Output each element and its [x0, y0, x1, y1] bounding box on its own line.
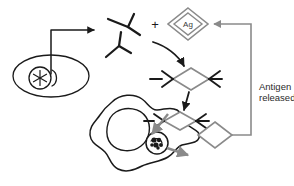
complex-upper-antibody-left	[150, 71, 173, 87]
antibody-antigen-complex-lower	[144, 112, 209, 130]
complex-upper-antigen	[173, 68, 209, 90]
free-antibodies	[106, 14, 140, 57]
antigen-label: Ag	[183, 20, 193, 29]
macrophage	[90, 95, 199, 171]
antibody-upper	[108, 14, 140, 35]
antibody-antigen-complex-upper	[150, 68, 222, 90]
arrow-complex-descend	[184, 92, 189, 110]
diagram-canvas: + Ag	[0, 0, 294, 186]
antigen-released-line1: Antigen	[259, 81, 291, 92]
diagram-svg: + Ag	[0, 0, 294, 186]
complex-lower-antibody-right	[196, 114, 209, 128]
antibody-lower	[106, 32, 131, 57]
lysosome	[146, 132, 168, 154]
arrow-binding-curve	[153, 42, 184, 66]
antigen-released-line2: released	[259, 92, 294, 103]
antigen-diamond: Ag	[168, 8, 208, 40]
antigen-released-label: Antigen released	[259, 81, 294, 103]
macrophage-nucleus	[107, 109, 150, 151]
plus-sign: +	[151, 17, 159, 32]
complex-upper-antibody-right	[209, 71, 222, 87]
